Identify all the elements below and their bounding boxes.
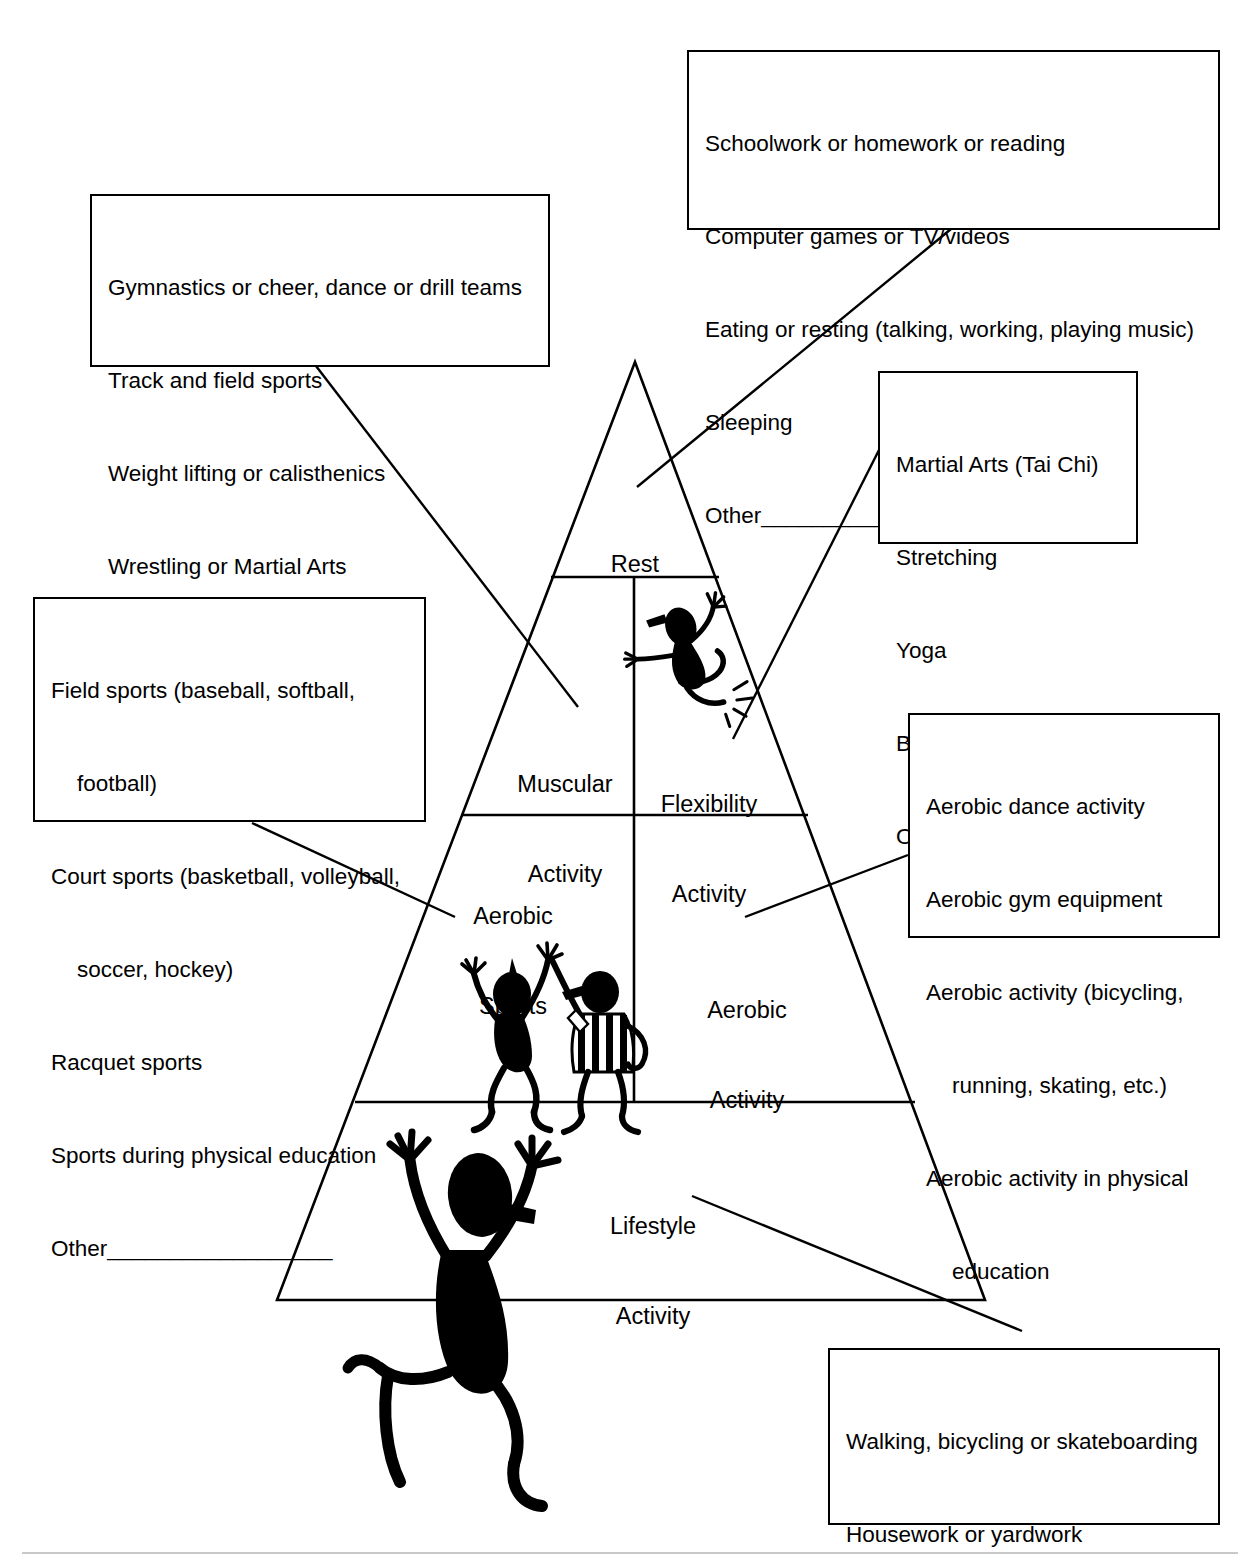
callout-aerobic-sports-line-1: football) [51,768,408,799]
callout-flexibility-line-1: Stretching [896,542,1120,573]
tier-label-aerobic-activity-line-1: Activity [677,1085,817,1115]
callout-flexibility-line-2: Yoga [896,635,1120,666]
activity-pyramid-diagram: Rest Muscular Activity Flexibility Activ… [0,0,1260,1568]
callout-aerobic-activity-line-5: education [926,1256,1202,1287]
callout-aerobic-sports-line-5: Sports during physical education [51,1140,408,1171]
callout-muscular-activity: Gymnastics or cheer, dance or drill team… [90,194,550,367]
callout-rest-line-0: Schoolwork or homework or reading [705,128,1202,159]
callout-aerobic-sports-line-4: Racquet sports [51,1047,408,1078]
tier-label-muscular-line-0: Muscular [495,769,635,799]
callout-rest-line-2: Eating or resting (talking, working, pla… [705,314,1202,345]
callout-aerobic-activity-line-0: Aerobic dance activity [926,791,1202,822]
callout-lifestyle-line-0: Walking, bicycling or skateboarding [846,1426,1202,1457]
footer-rule [22,1552,1238,1554]
callout-lifestyle-activity: Walking, bicycling or skateboarding Hous… [828,1348,1220,1525]
callout-aerobic-sports-line-2: Court sports (basketball, volleyball, [51,861,408,892]
tier-label-lifestyle-line-1: Activity [583,1301,723,1331]
tier-label-aerobic-activity: Aerobic Activity [677,935,817,1175]
callout-muscular-line-0: Gymnastics or cheer, dance or drill team… [108,272,532,303]
tier-label-aerobic-sports-line-0: Aerobic [443,901,583,931]
tier-label-flexibility-activity: Flexibility Activity [639,729,779,969]
tier-label-aerobic-sports-line-1: Sports [443,991,583,1021]
tier-label-lifestyle-line-0: Lifestyle [583,1211,723,1241]
callout-lifestyle-line-1: Housework or yardwork [846,1519,1202,1550]
tier-label-lifestyle-activity: Lifestyle Activity [583,1151,723,1391]
callout-rest: Schoolwork or homework or reading Comput… [687,50,1220,230]
callout-rest-line-1: Computer games or TV/videos [705,221,1202,252]
callout-aerobic-activity: Aerobic dance activity Aerobic gym equip… [908,713,1220,938]
callout-flexibility-line-0: Martial Arts (Tai Chi) [896,449,1120,480]
callout-muscular-line-1: Track and field sports [108,365,532,396]
callout-aerobic-sports-line-6: Other__________________ [51,1233,408,1264]
tier-label-flexibility-line-0: Flexibility [639,789,779,819]
tier-label-rest-line-0: Rest [575,549,695,579]
callout-muscular-line-2: Weight lifting or calisthenics [108,458,532,489]
tier-label-aerobic-sports: Aerobic Sports [443,841,583,1081]
callout-flexibility-activity: Martial Arts (Tai Chi) Stretching Yoga B… [878,371,1138,544]
callout-aerobic-activity-line-4: Aerobic activity in physical [926,1163,1202,1194]
callout-aerobic-sports-line-3: soccer, hockey) [51,954,408,985]
callout-aerobic-activity-line-3: running, skating, etc.) [926,1070,1202,1101]
callout-aerobic-sports: Field sports (baseball, softball, footba… [33,597,426,822]
tier-label-flexibility-line-1: Activity [639,879,779,909]
tier-label-rest: Rest [575,489,695,639]
callout-aerobic-activity-line-1: Aerobic gym equipment [926,884,1202,915]
callout-muscular-line-3: Wrestling or Martial Arts [108,551,532,582]
callout-aerobic-sports-line-0: Field sports (baseball, softball, [51,675,408,706]
callout-aerobic-activity-line-2: Aerobic activity (bicycling, [926,977,1202,1008]
tier-label-aerobic-activity-line-0: Aerobic [677,995,817,1025]
